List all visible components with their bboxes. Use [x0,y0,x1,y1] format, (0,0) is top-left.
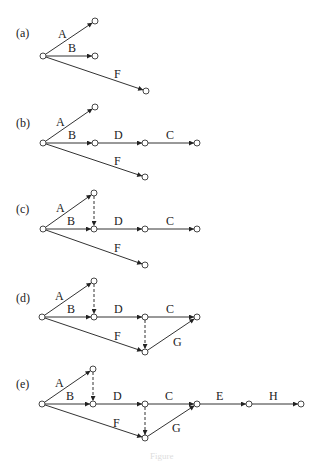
event-node [92,104,98,110]
panel-c: (c)ABDCF [16,190,200,268]
event-node [194,401,200,407]
diagram-panels: (a)ABF(b)ABDCF(c)ABDCF(d)ABDCFG(e)ABDCFG… [16,18,304,441]
activity-arrow-f [45,405,142,437]
activity-arrow-f [46,144,142,176]
event-node [91,314,97,320]
event-node [40,140,46,146]
event-node [142,401,148,407]
event-node [92,53,98,59]
event-node [194,226,200,232]
activity-label: F [114,154,121,168]
event-node [142,314,148,320]
figure-caption: Figure [150,451,174,461]
activity-label: G [173,335,182,349]
activity-label: C [166,128,174,142]
activity-label: D [114,128,123,142]
event-node [142,349,148,355]
activity-label: F [114,241,121,255]
event-node [142,174,148,180]
event-node [91,190,97,196]
activity-label: B [66,389,74,403]
activity-arrow-f [46,57,143,90]
activity-label: D [114,302,123,316]
event-node [143,88,149,94]
event-node [92,18,98,24]
event-node [142,435,148,441]
event-node [142,226,148,232]
event-node [40,53,46,59]
activity-label: F [114,329,121,343]
event-node [246,401,252,407]
event-node [90,366,96,372]
event-node [91,278,97,284]
activity-label: F [113,416,120,430]
activity-label: B [67,214,75,228]
panel-label: (e) [16,377,29,391]
activity-label: H [269,389,278,403]
activity-label: E [216,389,223,403]
panel-label: (c) [16,202,29,216]
activity-label: A [56,201,65,215]
event-node [298,401,304,407]
event-node [40,226,46,232]
panel-label: (a) [16,26,29,40]
activity-label: B [68,128,76,142]
activity-label: C [166,302,174,316]
panel-e: (e)ABDCFGEH [16,366,304,441]
activity-label: F [114,67,121,81]
activity-label: B [67,302,75,316]
activity-arrow-f [45,318,142,351]
activity-label: A [55,289,64,303]
activity-label: D [113,389,122,403]
activity-arrow-g [148,406,195,437]
event-node [142,262,148,268]
activity-label: A [55,376,64,390]
event-node [142,140,148,146]
event-node [91,226,97,232]
panel-label: (b) [16,116,30,130]
activity-label: A [56,115,65,129]
event-node [90,401,96,407]
activity-label: C [166,214,174,228]
activity-label: B [68,41,76,55]
panel-b: (b)ABDCF [16,104,200,180]
event-node [194,314,200,320]
activity-label: A [58,27,67,41]
activity-arrow-f [46,230,142,264]
network-diagram-canvas: (a)ABF(b)ABDCF(c)ABDCF(d)ABDCFG(e)ABDCFG… [0,0,316,462]
panel-label: (d) [16,291,30,305]
panel-d: (d)ABDCFG [16,278,200,355]
activity-arrow-g [148,319,195,351]
panel-a: (a)ABF [16,18,149,94]
event-node [194,140,200,146]
event-node [39,314,45,320]
event-node [92,140,98,146]
event-node [39,401,45,407]
activity-label: C [165,389,173,403]
activity-label: D [114,214,123,228]
activity-label: G [172,421,181,435]
